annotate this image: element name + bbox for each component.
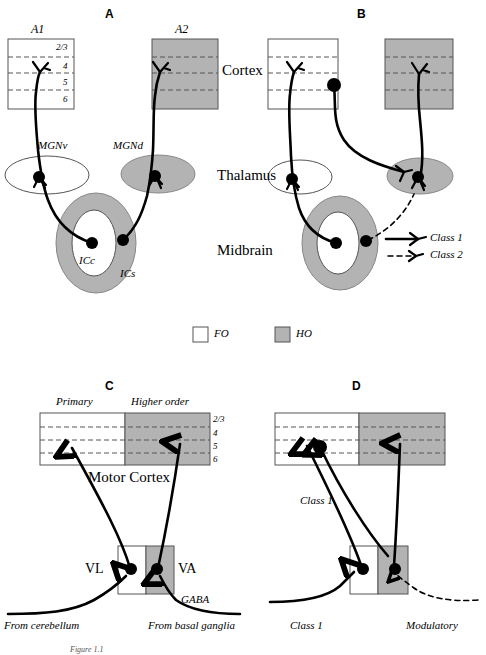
panelC-label-vl: VL xyxy=(85,562,104,576)
panelC-input-from-cerebellum xyxy=(8,576,126,614)
label-A1: A1 xyxy=(31,23,44,35)
panelC-label-va: VA xyxy=(178,562,196,576)
panelC-column-label-higher-order: Higher order xyxy=(131,396,189,407)
panelC-motor-cortex-strip xyxy=(40,413,210,465)
figure-thalamocortical-circuits: .bx{fill:#fff;stroke:#555;stroke-width:1… xyxy=(0,0,486,655)
label-icc: ICc xyxy=(79,255,95,266)
panelA-soma-icc xyxy=(86,237,98,249)
panel-letter-D: D xyxy=(352,380,361,392)
panelC-layer-4: 4 xyxy=(213,429,218,438)
label-ics: ICs xyxy=(120,268,135,279)
region-label-midbrain: Midbrain xyxy=(217,243,273,258)
layer-label-4-A: 4 xyxy=(63,62,68,71)
panelA-cortex-A2 xyxy=(152,39,218,109)
panelB-cortex-fo xyxy=(268,39,338,109)
panelC-input-label-cerebellum: From cerebellum xyxy=(4,620,79,631)
layer-label-5-A: 5 xyxy=(63,78,68,87)
panelC-label-gaba: GABA xyxy=(181,594,209,605)
panelB-thalamus-fo xyxy=(268,160,332,194)
panel-letter-A: A xyxy=(105,8,114,20)
panelC-soma-vl xyxy=(125,563,137,575)
label-mgnv: MGNv xyxy=(38,140,67,151)
layer-label-6-A: 6 xyxy=(63,95,68,104)
panelB-legend-class2 xyxy=(388,251,423,261)
panelD-cortex-strip xyxy=(275,413,445,465)
panelC-column-label-primary: Primary xyxy=(56,396,93,407)
panelC-input-label-basal-ganglia: From basal ganglia xyxy=(148,620,235,631)
panelC-cortex-name: Motor Cortex xyxy=(88,470,170,485)
legend-label-class1: Class 1 xyxy=(430,232,463,243)
key-swatch-fo xyxy=(193,327,208,342)
panelB-soma-midbrain-fo xyxy=(330,237,342,249)
figure-caption: Figure 1.1 xyxy=(70,646,103,654)
panelC-layer-6: 6 xyxy=(213,455,218,464)
panelC-soma-va xyxy=(151,563,163,575)
panelB-soma-midbrain-ho xyxy=(360,235,372,247)
layer-label-23-A: 2/3 xyxy=(56,43,68,52)
panelD-soma-fo xyxy=(357,563,369,575)
panelA-soma-ics xyxy=(117,234,129,246)
region-label-thalamus: Thalamus xyxy=(217,168,276,183)
label-mgnd: MGNd xyxy=(113,140,143,151)
panelA-mgnv-nucleus xyxy=(5,156,89,194)
panel-letter-C: C xyxy=(105,380,114,392)
panelB-legend-class1 xyxy=(386,233,426,245)
legend-label-class2: Class 2 xyxy=(430,249,463,260)
key-label-ho: HO xyxy=(296,328,312,339)
key-label-fo: FO xyxy=(214,328,229,339)
panelD-annotation-class1-cortex: Class 1 xyxy=(300,495,333,506)
panelC-layer-5: 5 xyxy=(213,442,218,451)
panelD-annotation-modulatory: Modulatory xyxy=(406,620,458,631)
region-label-cortex: Cortex xyxy=(222,63,263,78)
panel-letter-B: B xyxy=(357,8,366,20)
label-A2: A2 xyxy=(175,23,188,35)
panelD-input-class1 xyxy=(270,572,354,602)
panelC-layer-23: 2/3 xyxy=(213,415,225,424)
key-swatch-ho xyxy=(275,327,290,342)
panelD-soma-ho xyxy=(389,563,401,575)
panelD-annotation-class1-input: Class 1 xyxy=(290,620,323,631)
